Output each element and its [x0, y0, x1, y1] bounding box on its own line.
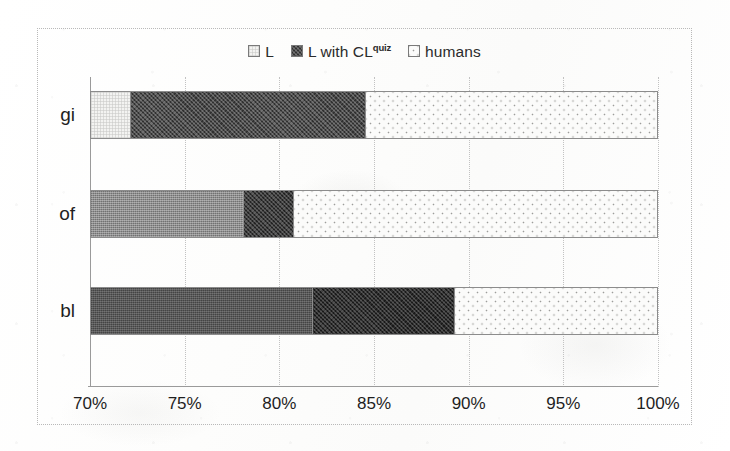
plot-area: gi of bl 70%75%80%85%90%95%100%: [90, 77, 658, 387]
gridline-100: [658, 77, 659, 387]
x-tick-label-70: 70%: [73, 394, 107, 414]
category-label-gi: gi: [60, 91, 75, 139]
bar-segment-of-humans[interactable]: [293, 190, 658, 238]
legend-entry-l-with-cl-quiz[interactable]: L with CLquiz: [291, 43, 391, 60]
legend-label-humans: humans: [425, 44, 481, 60]
bar-segment-of-cl-quiz[interactable]: [243, 190, 292, 238]
x-tick-label-100: 100%: [636, 394, 679, 414]
legend-entry-humans[interactable]: humans: [408, 44, 481, 60]
x-tick-label-90: 90%: [452, 394, 486, 414]
category-label-of: of: [59, 190, 75, 238]
bar-segment-gi-humans[interactable]: [365, 91, 658, 139]
category-label-bl: bl: [60, 287, 75, 335]
x-tick-label-95: 95%: [546, 394, 580, 414]
x-tick-label-85: 85%: [357, 394, 391, 414]
bar-segment-gi-cl-quiz[interactable]: [130, 91, 365, 139]
legend-swatch-l-icon: [248, 45, 260, 57]
bar-row-gi[interactable]: gi: [90, 91, 658, 139]
legend-label-cl-superscript: quiz: [373, 42, 391, 53]
bar-row-bl[interactable]: bl: [90, 287, 658, 335]
bar-segment-bl-humans[interactable]: [454, 287, 658, 335]
bar-segment-gi-l[interactable]: [90, 91, 130, 139]
x-axis-tick-labels: 70%75%80%85%90%95%100%: [90, 387, 658, 421]
x-tick-label-75: 75%: [168, 394, 202, 414]
bar-segment-bl-l[interactable]: [90, 287, 312, 335]
chart-frame: L L with CLquiz humans gi of: [37, 28, 692, 425]
legend-swatch-cl-icon: [291, 45, 303, 57]
legend-swatch-humans-icon: [408, 45, 420, 57]
chart-legend: L L with CLquiz humans: [38, 43, 691, 60]
legend-entry-l[interactable]: L: [248, 44, 274, 60]
bar-segment-of-l[interactable]: [90, 190, 243, 238]
bar-row-of[interactable]: of: [90, 190, 658, 238]
legend-label-cl-text: L with CL: [308, 43, 373, 60]
bar-segment-bl-cl-quiz[interactable]: [312, 287, 454, 335]
x-tick-label-80: 80%: [262, 394, 296, 414]
legend-label-l: L: [265, 44, 274, 60]
legend-label-cl: L with CLquiz: [308, 43, 391, 60]
